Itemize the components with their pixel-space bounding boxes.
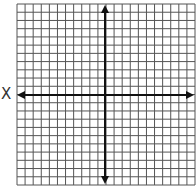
x-axis-left-arrow-icon	[17, 91, 25, 99]
x-axis-label: X	[1, 86, 11, 102]
y-axis-up-arrow-icon	[101, 5, 109, 13]
grid-svg	[0, 0, 196, 189]
y-axis-down-arrow-icon	[101, 176, 109, 184]
x-axis-right-arrow-icon	[186, 91, 194, 99]
